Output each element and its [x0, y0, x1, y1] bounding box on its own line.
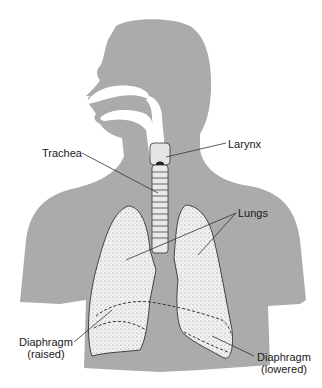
trachea [150, 143, 170, 253]
diaphragm-raised-label: Diaphragm (raised) [16, 336, 76, 360]
diaphragm-raised-label-line2: (raised) [16, 348, 76, 360]
trachea-label: Trachea [42, 147, 82, 159]
lungs-label: Lungs [238, 207, 268, 219]
larynx-label: Larynx [228, 138, 261, 150]
diaphragm-lowered-label: Diaphragm (lowered) [252, 351, 316, 375]
diaphragm-lowered-label-line2: (lowered) [252, 363, 316, 375]
diaphragm-lowered-label-line1: Diaphragm [252, 351, 316, 363]
diaphragm-raised-label-line1: Diaphragm [16, 336, 76, 348]
respiratory-diagram [0, 0, 322, 388]
